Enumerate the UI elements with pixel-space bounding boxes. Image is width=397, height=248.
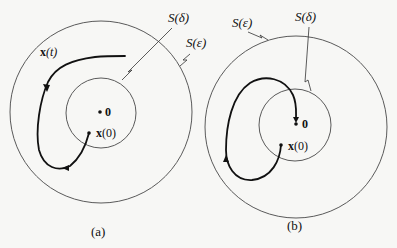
origin-label: 0: [105, 105, 111, 119]
caption-a: (a): [91, 224, 105, 239]
s-epsilon-leader: [180, 54, 190, 66]
origin-label: 0: [302, 117, 308, 131]
panel-b: 0 x(0) S(ε) S(δ) (b): [205, 9, 387, 233]
s-epsilon-label: S(ε): [186, 35, 206, 50]
s-delta-leader: [122, 28, 172, 80]
s-delta-label: S(δ): [168, 10, 189, 25]
trajectory: [226, 78, 296, 180]
stability-diagram: 0 x(0) x(t) S(δ) S(ε) (a) 0 x(0) S(ε) S(…: [0, 0, 397, 248]
s-epsilon-leader: [248, 32, 268, 40]
direction-arrow-icon: [293, 117, 299, 123]
initial-point-label: x(0): [288, 139, 308, 153]
direction-arrow-icon: [62, 165, 69, 171]
trajectory: [38, 56, 125, 169]
outer-circle-s-epsilon: [205, 36, 387, 218]
panel-a: 0 x(0) x(t) S(δ) S(ε) (a): [10, 10, 206, 239]
caption-b: (b): [287, 218, 302, 233]
s-delta-label: S(δ): [295, 9, 316, 24]
direction-arrow-icon: [223, 155, 229, 162]
initial-point-label: x(0): [96, 126, 116, 140]
trajectory-label: x(t): [40, 45, 57, 59]
s-epsilon-label: S(ε): [232, 15, 252, 30]
origin-dot: [98, 110, 102, 114]
